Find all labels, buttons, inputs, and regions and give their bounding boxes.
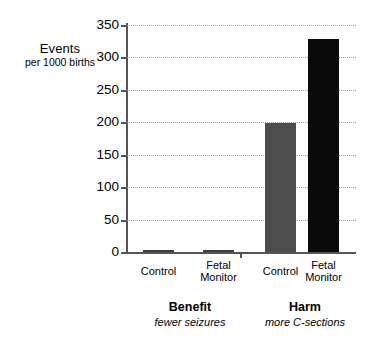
y-axis-title-main: Events	[10, 42, 110, 57]
y-axis-tick-label: 150	[96, 148, 119, 162]
x-tick-label: Control	[131, 265, 187, 277]
y-axis-tick-label: 300	[96, 51, 119, 65]
y-axis-tick-label: 50	[104, 213, 119, 227]
x-tick-label: FetalMonitor	[191, 259, 247, 284]
x-tick-label-line2: Monitor	[191, 271, 247, 283]
x-tick-label-line1: Fetal	[296, 259, 352, 271]
y-axis-title-sub: per 1000 births	[10, 57, 110, 69]
bar-harm-fetal-monitor	[308, 39, 339, 252]
x-tick-label: FetalMonitor	[296, 259, 352, 284]
x-tick-label-line1: Control	[131, 265, 187, 277]
group-title-harm: Harm	[240, 300, 370, 316]
y-axis-tick	[121, 155, 127, 157]
plot-area: 050100150200250300350	[127, 25, 356, 252]
x-axis-line	[121, 252, 356, 254]
group-subtitle-benefit: fewer seizures	[125, 316, 255, 330]
y-axis-tick	[121, 187, 127, 189]
bar-harm-control	[265, 123, 296, 252]
y-axis-tick	[121, 220, 127, 222]
group-label-benefit: Benefit fewer seizures	[125, 300, 255, 329]
y-axis-tick	[121, 122, 127, 124]
group-title-benefit: Benefit	[125, 300, 255, 316]
bar-benefit-fetal-monitor	[203, 250, 234, 252]
y-axis-tick-label: 0	[111, 245, 119, 259]
x-tick-label-line2: Monitor	[296, 271, 352, 283]
y-axis-tick	[121, 57, 127, 59]
bar-benefit-control	[143, 250, 174, 252]
x-tick-label-line1: Fetal	[191, 259, 247, 271]
y-axis-tick-label: 100	[96, 180, 119, 194]
y-axis-title: Events per 1000 births	[10, 42, 110, 68]
y-axis-tick	[121, 25, 127, 27]
x-axis-group-separator-tick	[240, 252, 242, 258]
y-axis-tick-label: 250	[96, 83, 119, 97]
y-axis-tick-label: 200	[96, 116, 119, 130]
group-subtitle-harm: more C-sections	[240, 316, 370, 330]
bar-chart-figure: Events per 1000 births 05010015020025030…	[0, 0, 379, 341]
y-axis-tick	[121, 252, 127, 254]
gridline	[127, 25, 356, 26]
y-axis-tick	[121, 90, 127, 92]
y-axis-tick-label: 350	[96, 18, 119, 32]
group-label-harm: Harm more C-sections	[240, 300, 370, 329]
